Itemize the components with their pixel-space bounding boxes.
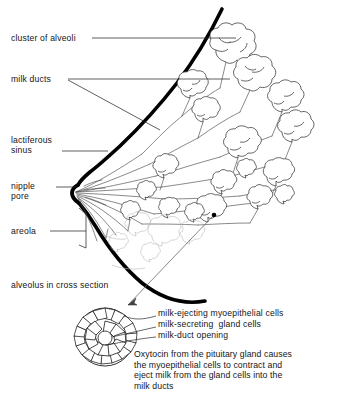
breast-outline (72, 9, 222, 302)
alveolus-cluster (121, 201, 141, 221)
alveolus-cluster (237, 159, 257, 179)
alveolus-cluster (263, 158, 294, 186)
label-alveolus-in-cross-section: alveolus in cross section (11, 280, 108, 290)
alveolus-cluster (177, 70, 208, 98)
alveolus-cluster (234, 54, 276, 91)
label-milk-ducts: milk ducts (11, 74, 51, 84)
label-nipple-pore: nipple pore (11, 181, 35, 201)
label-gland-cells: milk-secreting gland cells (158, 319, 261, 329)
label-lactiferous-sinus: lactiferous sinus (11, 135, 52, 155)
alveolus-cluster (224, 126, 262, 158)
oxytocin-caption: Oxytocin from the pituitary gland causes… (134, 349, 334, 391)
cross-section-pointer (128, 217, 212, 305)
label-cluster-of-alveoli: cluster of alveoli (11, 33, 76, 43)
alveolus-cluster (153, 154, 179, 178)
alveolus-cluster (211, 170, 237, 194)
alveolus-cluster (275, 185, 295, 205)
breast-anatomy-diagram (0, 0, 340, 408)
alveolus-cluster (268, 80, 304, 112)
alveolus-cluster (247, 185, 273, 209)
leader-milk-ducts-b (68, 80, 160, 130)
alveoli-clusters (121, 23, 314, 222)
alveolus-cluster (192, 97, 220, 122)
alveolus-cross-section (74, 308, 137, 366)
label-milk-duct-opening: milk-duct opening (158, 330, 228, 340)
alveolus-cluster (278, 110, 314, 142)
alveolus-cluster (159, 197, 180, 218)
label-areola: areola (11, 226, 36, 236)
areola-bracket (79, 208, 86, 248)
label-myoepithelial-cells: milk-ejecting myoepithelial cells (158, 308, 284, 318)
